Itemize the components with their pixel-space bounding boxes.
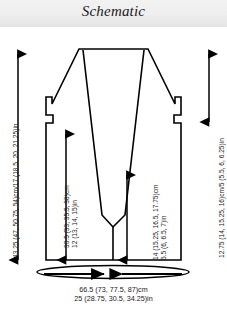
width-label-in: 25 (28.75, 30.5, 34.25)in (0, 294, 227, 304)
neck-depth-label-cm: 14 (15.25, 16.5, 17.75)cm (152, 184, 160, 260)
body-length-label-cm: 30.5 (33, 35.5, 38)cm (63, 185, 71, 248)
schematic-page: Schematic (0, 0, 227, 311)
body-length-label-in: 12 (13, 14, 15)in (71, 200, 79, 248)
page-title: Schematic (0, 3, 227, 20)
armhole-depth-label: 12.75 (14, 15.25, 16)cm/5 (5.5, 6, 6.25)… (218, 138, 226, 258)
width-ellipse (37, 266, 189, 279)
schematic-drawing (0, 27, 227, 311)
total-length-label: 43.25 (47, 50.75, 54)cm/17 (18.5, 20, 21… (12, 123, 20, 258)
neck-depth-label-in: 5.5 (6, 6.5, 7)in (160, 216, 168, 260)
